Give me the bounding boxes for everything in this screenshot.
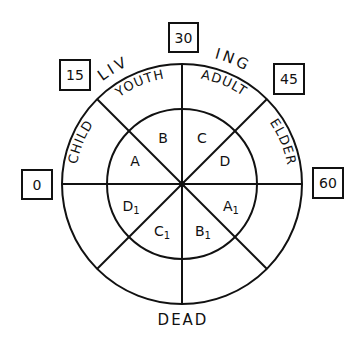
diagonal-upper-right bbox=[182, 99, 267, 184]
svg-text:30: 30 bbox=[175, 30, 193, 46]
svg-text:0: 0 bbox=[33, 177, 42, 193]
life-cycle-diagram: LIV ING CHILD YOUTH ADULT ELDER A B C D … bbox=[0, 0, 360, 337]
sector-d1: D1 bbox=[122, 198, 139, 216]
age-box-60: 60 bbox=[313, 168, 343, 198]
sector-a1: A1 bbox=[223, 198, 239, 216]
diagonal-upper-left bbox=[97, 99, 182, 184]
sector-c1: C1 bbox=[154, 223, 170, 241]
svg-text:15: 15 bbox=[66, 67, 84, 83]
age-box-0: 0 bbox=[22, 170, 52, 199]
sector-c: C bbox=[197, 130, 207, 146]
age-box-15: 15 bbox=[60, 60, 90, 90]
age-box-45: 45 bbox=[274, 64, 304, 94]
sector-a: A bbox=[130, 153, 140, 169]
sector-b1: B1 bbox=[195, 223, 211, 241]
sector-b: B bbox=[158, 130, 168, 146]
age-box-30: 30 bbox=[169, 23, 198, 52]
dead-label: DEAD bbox=[158, 311, 209, 329]
diagonal-lower-left bbox=[97, 184, 182, 269]
center-point bbox=[179, 181, 185, 187]
sector-d: D bbox=[220, 153, 231, 169]
svg-text:60: 60 bbox=[319, 175, 337, 191]
svg-text:45: 45 bbox=[280, 71, 298, 87]
